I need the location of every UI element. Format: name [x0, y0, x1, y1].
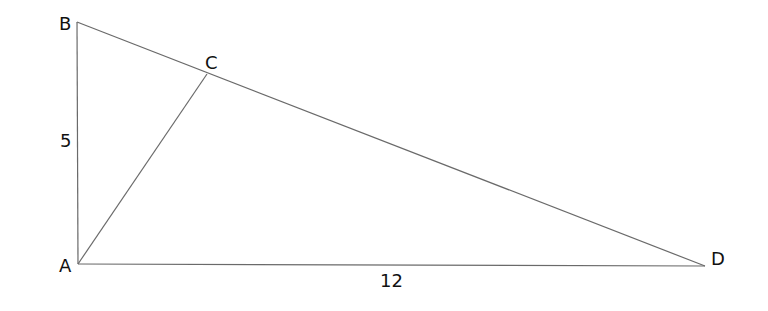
segment-bd	[77, 22, 705, 266]
segment-ad	[78, 264, 705, 266]
length-label-ad: 12	[380, 270, 403, 291]
segment-ac	[78, 74, 207, 264]
segment-ab	[77, 22, 78, 264]
point-label-c: C	[205, 52, 218, 73]
point-label-d: D	[711, 248, 725, 269]
point-label-b: B	[59, 13, 71, 34]
length-label-ab: 5	[60, 130, 71, 151]
geometry-diagram: B C A D 5 12	[0, 0, 768, 311]
point-label-a: A	[59, 255, 72, 276]
